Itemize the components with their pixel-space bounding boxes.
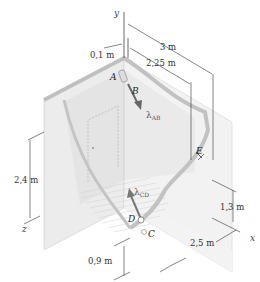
y-axis-label: y [113, 8, 120, 18]
point-b-label: B [131, 86, 139, 96]
point-a-label: A [109, 72, 117, 82]
point-c-label: C [148, 229, 155, 239]
mechanics-diagram: y x z A B C D E λAB λCD 0,1 m 3 m 2,25 m… [0, 0, 260, 282]
dim-top-long-label: 3 m [160, 42, 176, 52]
point-e-label: E [195, 146, 203, 156]
point-c-marker [142, 230, 147, 235]
point-d-label: D [127, 214, 135, 224]
dim-right-height-label: 1,3 m [220, 202, 244, 212]
dim-top-short-label: 2,25 m [146, 58, 176, 68]
dim-bottom-width-label: 2,5 m [190, 238, 214, 248]
z-axis-label: z [21, 224, 27, 234]
x-axis-label: x [250, 233, 255, 243]
door-knob [92, 147, 94, 149]
dim-offset-label: 0,1 m [90, 50, 114, 60]
dim-left-height-label: 2,4 m [14, 175, 38, 185]
dim-bottom-height-label: 0,9 m [88, 256, 112, 266]
point-d-marker [138, 217, 144, 223]
